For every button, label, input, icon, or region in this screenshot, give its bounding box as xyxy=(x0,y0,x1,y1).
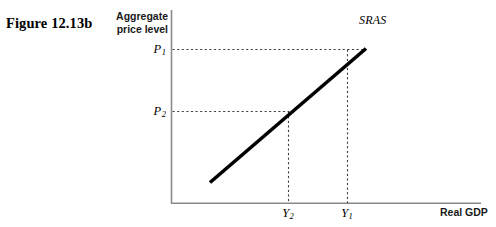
plot-area xyxy=(0,0,496,227)
figure-container: Figure 12.13b Aggregate price level Real… xyxy=(0,0,496,227)
